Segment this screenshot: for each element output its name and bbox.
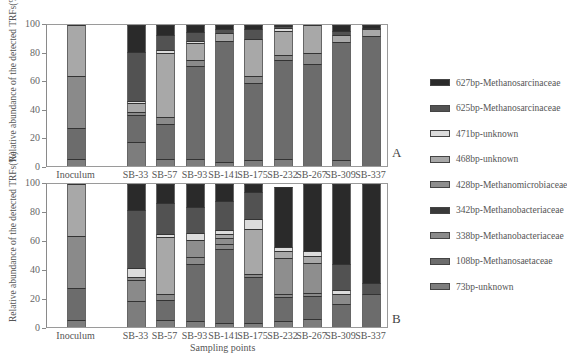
bar-segment	[67, 288, 86, 319]
x-tick-label: SB-337	[351, 169, 391, 180]
y-tick-mark	[42, 183, 46, 184]
bar-segment	[303, 256, 322, 263]
y-tick-mark	[42, 299, 46, 300]
bar-segment	[215, 249, 234, 323]
y-tick-label: 40	[22, 104, 40, 115]
bar-sb-141	[215, 25, 234, 166]
bar-sb-337	[362, 25, 381, 166]
bar-segment	[244, 323, 263, 327]
bar-segment	[215, 33, 234, 40]
bar-segment	[244, 83, 263, 161]
legend-swatch	[430, 156, 450, 163]
bar-segment	[303, 64, 322, 166]
bar-segment	[127, 280, 146, 301]
bar-segment	[244, 229, 263, 274]
y-tick-label: 20	[22, 293, 40, 304]
bar-segment	[215, 184, 234, 201]
bar-segment	[186, 321, 205, 327]
bar-sb-33	[127, 25, 146, 166]
bar-segment	[303, 53, 322, 64]
legend-swatch	[430, 79, 450, 86]
y-tick-label: 0	[22, 322, 40, 333]
bar-segment	[244, 76, 263, 83]
bar-segment	[67, 76, 86, 128]
bar-segment	[67, 236, 86, 289]
legend-item: 428bp-Methanomicrobiaceae	[430, 172, 567, 198]
bar-sb-175	[244, 25, 263, 166]
bar-segment	[67, 25, 86, 76]
bar-segment	[274, 60, 293, 159]
legend-swatch	[430, 283, 450, 290]
bar-segment	[156, 117, 175, 124]
chart-panel-b	[46, 183, 388, 328]
legend-label: 627bp-Methanosarcinaceae	[456, 78, 560, 88]
bar-segment	[186, 264, 205, 321]
bar-segment	[274, 31, 293, 55]
y-tick-label: 80	[22, 47, 40, 58]
legend-swatch	[430, 130, 450, 137]
bar-segment	[156, 53, 175, 116]
bar-segment	[303, 319, 322, 328]
bar-segment	[156, 237, 175, 294]
bar-segment	[127, 301, 146, 327]
panel-label-a: A	[392, 145, 401, 161]
legend-swatch	[430, 232, 450, 239]
bar-segment	[156, 203, 175, 234]
bar-segment	[274, 187, 293, 247]
bar-segment	[186, 240, 205, 257]
bar-segment	[332, 42, 351, 160]
legend-label: 625bp-Methanosarcinaceae	[456, 103, 560, 113]
bar-segment	[362, 184, 381, 283]
bar-sb-267	[303, 25, 322, 166]
x-tick-label: Inoculum	[56, 169, 96, 180]
bar-segment	[127, 268, 146, 277]
bar-segment	[274, 258, 293, 294]
bar-segment	[303, 25, 322, 53]
bar-segment	[186, 25, 205, 32]
bar-segment	[67, 159, 86, 166]
bar-segment	[274, 321, 293, 327]
bar-segment	[215, 323, 234, 327]
bar-segment	[244, 29, 263, 39]
y-tick-mark	[42, 110, 46, 111]
y-tick-mark	[42, 138, 46, 139]
bar-segment	[127, 184, 146, 210]
bar-segment	[362, 36, 381, 166]
bar-segment	[332, 264, 351, 290]
legend-label: 73bp-unknown	[456, 282, 514, 292]
bar-segment	[156, 320, 175, 327]
bar-segment	[127, 25, 146, 52]
bar-segment	[244, 160, 263, 166]
bar-segment	[362, 29, 381, 36]
legend-label: 338bp-Methanobacteriaceae	[456, 231, 564, 241]
bar-segment	[186, 257, 205, 264]
legend-swatch	[430, 207, 450, 214]
bar-segment	[127, 142, 146, 166]
legend-label: 471bp-unknown	[456, 129, 518, 139]
x-axis-title: Sampling points	[190, 342, 255, 353]
bar-segment	[244, 184, 263, 192]
bar-segment	[244, 277, 263, 323]
y-tick-mark	[42, 167, 46, 168]
y-tick-label: 80	[22, 206, 40, 217]
bar-segment	[332, 184, 351, 264]
bar-sb-57	[156, 25, 175, 166]
bar-segment	[127, 115, 146, 142]
bar-segment	[186, 159, 205, 166]
bar-segment	[156, 300, 175, 320]
y-tick-label: 100	[22, 18, 40, 29]
legend-item: 625bp-Methanosarcinaceae	[430, 96, 567, 122]
legend: 627bp-Methanosarcinaceae625bp-Methanosar…	[430, 70, 567, 300]
legend-swatch	[430, 105, 450, 112]
bar-sb-232	[274, 25, 293, 166]
legend-item: 471bp-unknown	[430, 121, 567, 147]
bar-sb-175	[244, 184, 263, 327]
legend-label: 428bp-Methanomicrobiaceae	[456, 180, 567, 190]
bar-segment	[332, 294, 351, 304]
y-tick-label: 0	[22, 161, 40, 172]
y-tick-mark	[42, 24, 46, 25]
y-tick-label: 60	[22, 75, 40, 86]
legend-swatch	[430, 181, 450, 188]
y-tick-mark	[42, 53, 46, 54]
bar-segment	[303, 296, 322, 319]
